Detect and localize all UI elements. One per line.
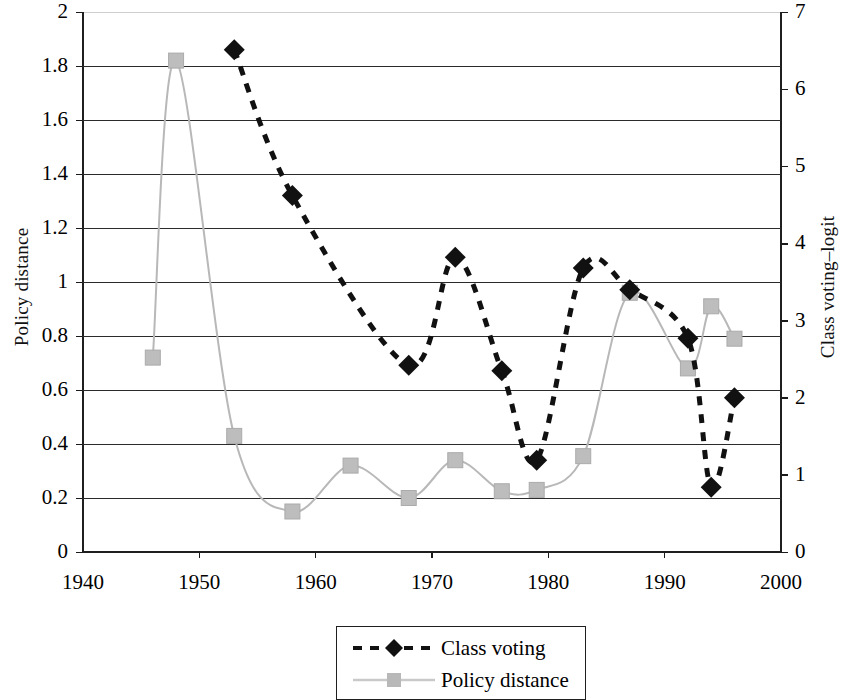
series-class-voting: [224, 39, 745, 497]
data-point-marker: [494, 484, 509, 499]
y-left-tick-label: 0.6: [0, 379, 68, 400]
y-left-tick-label: 0: [0, 541, 68, 562]
y-right-tick-label: 1: [795, 464, 806, 485]
legend-label-class-voting: Class voting: [441, 631, 545, 665]
legend-item-class-voting: Class voting: [337, 631, 585, 665]
data-point-marker: [224, 39, 245, 60]
x-tick-label: 2000: [731, 572, 831, 593]
y-left-tick-label: 1: [0, 271, 68, 292]
data-point-marker: [445, 247, 466, 268]
data-point-marker: [724, 387, 745, 408]
chart-figure: Policy distance Class voting–logit 00.20…: [0, 0, 847, 700]
plot-area: [83, 12, 781, 552]
y-left-tick-label: 0.8: [0, 325, 68, 346]
y-left-tick-label: 1.6: [0, 109, 68, 130]
x-tick-label: 1990: [615, 572, 715, 593]
y-left-tick-label: 1.4: [0, 163, 68, 184]
data-point-marker: [145, 350, 160, 365]
x-tick-label: 1950: [149, 572, 249, 593]
legend-item-policy-distance: Policy distance: [337, 663, 585, 697]
y-right-tick-label: 0: [795, 541, 806, 562]
x-tick-label: 1940: [33, 572, 133, 593]
data-point-marker: [677, 328, 698, 349]
data-point-marker: [704, 299, 719, 314]
y-right-tick-label: 2: [795, 387, 806, 408]
data-point-marker: [491, 360, 512, 381]
data-point-marker: [285, 504, 300, 519]
data-point-marker: [529, 482, 544, 497]
y-right-tick-label: 4: [795, 232, 806, 253]
legend: Class voting Policy distance: [336, 626, 586, 700]
series-line: [234, 50, 734, 488]
data-point-marker: [576, 449, 591, 464]
y-right-tick-label: 7: [795, 1, 806, 22]
y-left-tick-label: 2: [0, 1, 68, 22]
data-point-marker: [727, 331, 742, 346]
y-left-tick-label: 1.2: [0, 217, 68, 238]
legend-marker-policy-distance: [351, 663, 437, 697]
y-right-tick-label: 3: [795, 310, 806, 331]
y-right-tick-label: 5: [795, 155, 806, 176]
data-point-marker: [448, 453, 463, 468]
x-tick-label: 1980: [498, 572, 598, 593]
x-tick-label: 1970: [382, 572, 482, 593]
y-left-tick-label: 1.8: [0, 55, 68, 76]
legend-label-policy-distance: Policy distance: [441, 663, 569, 697]
data-point-marker: [227, 428, 242, 443]
y-left-tick-label: 0.2: [0, 487, 68, 508]
y-axis-right-title: Class voting–logit: [817, 177, 839, 397]
legend-marker-class-voting: [351, 631, 437, 665]
data-point-marker: [398, 355, 419, 376]
data-point-marker: [401, 491, 416, 506]
data-point-marker: [526, 450, 547, 471]
y-left-tick-label: 0.4: [0, 433, 68, 454]
data-point-marker: [343, 458, 358, 473]
y-right-tick-label: 6: [795, 78, 806, 99]
series-layer: [83, 12, 781, 552]
data-point-marker: [169, 53, 184, 68]
data-point-marker: [282, 185, 303, 206]
x-tick-label: 1960: [266, 572, 366, 593]
data-point-marker: [701, 477, 722, 498]
